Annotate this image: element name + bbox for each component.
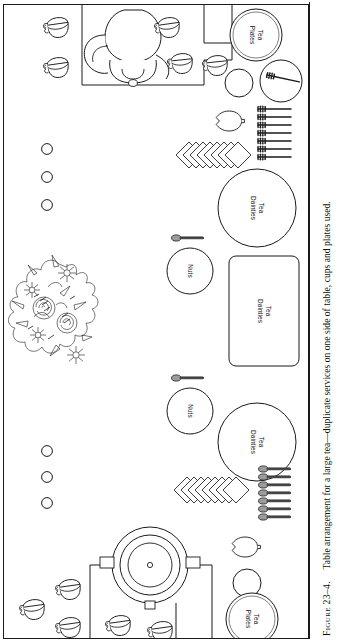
caption-rule	[309, 2, 310, 639]
figure-caption-body: Table arrangement for a large tea—duplic…	[321, 201, 332, 569]
sugar-cubes-top	[42, 144, 53, 211]
tea-dainties-tray-center	[229, 256, 299, 366]
coffee-urn-bottom	[100, 527, 200, 609]
teacups-bottom-left	[19, 578, 82, 638]
figure-page: Tea Plates Tea Dainties Nuts Tea Daintie…	[0, 0, 341, 641]
flower-arrangement	[8, 255, 98, 364]
lemon-dish-top	[216, 111, 244, 131]
teacups-top-tray	[154, 16, 229, 77]
small-plate-bottom	[233, 569, 261, 597]
tea-plates-stack-top	[230, 9, 282, 61]
plate-with-fork-top	[260, 60, 302, 102]
teacups-bottom-tray	[105, 614, 174, 638]
tea-plates-stack-bottom	[226, 593, 278, 638]
nuts-bowl-lower	[167, 388, 213, 434]
figure-caption-text: Figure 23–4. Table arrangement for a lar…	[321, 6, 333, 636]
nuts-bowl-upper	[167, 248, 213, 294]
teapot-top	[84, 10, 168, 86]
napkin-stack-bottom	[174, 477, 249, 503]
table-arrangement-diagram: Tea Plates Tea Dainties Nuts Tea Daintie…	[3, 4, 309, 639]
lemon-dish-bottom	[232, 537, 260, 557]
figure-number: Figure 23–4.	[321, 581, 332, 636]
figure-caption: Figure 23–4. Table arrangement for a lar…	[312, 0, 341, 641]
diagram-canvas	[4, 5, 308, 638]
tea-dainties-plate-upper	[218, 169, 296, 247]
nut-spoon-upper	[172, 235, 203, 241]
small-plate-top	[225, 69, 253, 97]
napkin-stack-top	[176, 142, 251, 168]
forks-row-top	[258, 106, 291, 160]
nut-spoon-lower	[172, 375, 203, 381]
sugar-cubes-bottom	[42, 446, 53, 509]
teacups-top-left	[43, 16, 70, 79]
